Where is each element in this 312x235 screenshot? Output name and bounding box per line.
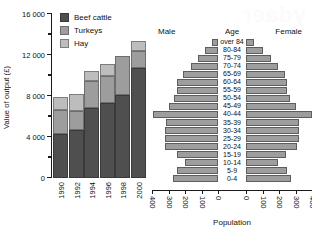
- pyramid-age-label: 15-19: [222, 151, 242, 159]
- pyramid-rows: over 8480-8475-7970-7465-6960-6455-5950-…: [152, 38, 312, 190]
- pyramid-age-label: 65-69: [222, 70, 242, 78]
- pyramid-female-bar[interactable]: [246, 95, 290, 102]
- pyramid-male-bar[interactable]: [177, 167, 218, 174]
- pyramid-row: 40-44: [152, 110, 312, 118]
- pyramid-female-bar[interactable]: [246, 111, 312, 118]
- bar-chart-x-tick-label: 2000: [135, 182, 144, 199]
- pyramid-female-bar[interactable]: [246, 143, 297, 150]
- pyramid-male-bar[interactable]: [177, 151, 218, 158]
- pyramid-age-label: 60-64: [222, 78, 242, 86]
- pyramid-row: 25-29: [152, 135, 312, 143]
- pyramid-female-bar[interactable]: [246, 135, 299, 142]
- pyramid-female-bar[interactable]: [246, 79, 287, 86]
- pyramid-female-bar[interactable]: [246, 63, 278, 70]
- legend-item[interactable]: Beef cattle: [60, 11, 112, 24]
- pyramid-row: 15-19: [152, 151, 312, 159]
- pyramid-female-heading: Female: [275, 27, 302, 36]
- pyramid-row: 20-24: [152, 143, 312, 151]
- pyramid-age-label: over 84: [219, 38, 244, 46]
- legend-item[interactable]: Turkeys: [60, 24, 112, 37]
- legend-swatch: [60, 39, 69, 48]
- legend-swatch: [60, 26, 69, 35]
- pyramid-row: 30-34: [152, 127, 312, 135]
- pyramid-x-tick-label: 300: [165, 196, 174, 209]
- bar-chart-y-minor-tick: [48, 156, 52, 157]
- bar-chart-y-minor-tick: [48, 115, 52, 116]
- pyramid-female-bar[interactable]: [246, 175, 291, 182]
- pyramid-male-bar[interactable]: [212, 39, 218, 46]
- pyramid-x-tick-label: 100: [259, 196, 268, 209]
- pyramid-male-bar[interactable]: [177, 79, 218, 86]
- pyramid-female-bar[interactable]: [246, 103, 296, 110]
- bar-chart-y-tick: [47, 177, 52, 178]
- pyramid-x-tick-label: 400: [308, 196, 312, 209]
- population-pyramid-chart: Male Age Female over 8480-8475-7970-7465…: [152, 0, 312, 235]
- pyramid-male-bar[interactable]: [165, 135, 218, 142]
- pyramid-row: 75-79: [152, 54, 312, 62]
- pyramid-male-bar[interactable]: [183, 71, 218, 78]
- pyramid-female-bar[interactable]: [246, 127, 299, 134]
- pyramid-male-bar[interactable]: [166, 119, 218, 126]
- pyramid-x-tick: [152, 190, 153, 194]
- pyramid-x-tick-label: 200: [275, 196, 284, 209]
- pyramid-female-bar[interactable]: [246, 167, 287, 174]
- pyramid-female-bar[interactable]: [246, 159, 278, 166]
- pyramid-female-bar[interactable]: [246, 151, 286, 158]
- bar-chart-segment: [131, 68, 146, 178]
- legend-label: Beef cattle: [74, 13, 112, 22]
- pyramid-x-tick: [218, 190, 219, 194]
- pyramid-age-label: 0-4: [226, 175, 238, 183]
- bar-chart-y-tick: [47, 13, 52, 14]
- pyramid-male-bar[interactable]: [173, 175, 218, 182]
- pyramid-row: 5-9: [152, 167, 312, 175]
- pyramid-x-tick-label: 300: [292, 196, 301, 209]
- bar-chart-y-tick-label: 16 000: [22, 10, 45, 19]
- bar-chart-segment: [53, 110, 68, 134]
- legend-item[interactable]: Hay: [60, 37, 112, 50]
- bar-chart-segment: [69, 111, 84, 129]
- bar-chart-y-tick-label: 12 000: [22, 51, 45, 60]
- pyramid-male-bar[interactable]: [191, 63, 218, 70]
- pyramid-age-label: 80-84: [222, 46, 242, 54]
- pyramid-female-bar[interactable]: [246, 55, 271, 62]
- stacked-bar-chart: Value of output (£) 04 0008 00012 00016 …: [0, 0, 152, 235]
- bar-chart-y-axis-title: Value of output (£): [1, 42, 13, 152]
- pyramid-row: 80-84: [152, 46, 312, 54]
- bar-chart-segment: [69, 130, 84, 178]
- bar-chart-segment: [115, 95, 130, 178]
- bar-chart-x-tick-label: 1996: [104, 182, 113, 199]
- pyramid-age-label: 55-59: [222, 86, 242, 94]
- bar-chart-segment: [115, 56, 130, 95]
- bar-chart-segment: [84, 71, 99, 80]
- pyramid-female-bar[interactable]: [246, 47, 263, 54]
- pyramid-male-bar[interactable]: [185, 159, 218, 166]
- pyramid-female-bar[interactable]: [246, 119, 299, 126]
- pyramid-male-bar[interactable]: [165, 127, 218, 134]
- bar-chart-x-tick-label: 1998: [119, 182, 128, 199]
- pyramid-male-bar[interactable]: [165, 143, 218, 150]
- pyramid-female-bar[interactable]: [246, 39, 254, 46]
- pyramid-row: 45-49: [152, 102, 312, 110]
- pyramid-male-bar[interactable]: [153, 111, 218, 118]
- bar-chart-segment: [100, 64, 115, 75]
- pyramid-age-label: 20-24: [222, 143, 242, 151]
- pyramid-age-label: 35-39: [222, 119, 242, 127]
- pyramid-male-bar[interactable]: [177, 87, 218, 94]
- pyramid-male-bar[interactable]: [205, 47, 218, 54]
- pyramid-row: over 84: [152, 38, 312, 46]
- pyramid-male-bar[interactable]: [174, 95, 218, 102]
- pyramid-x-axis-title: Population: [152, 218, 312, 227]
- pyramid-x-tick: [279, 190, 280, 194]
- bar-chart-segment: [84, 108, 99, 178]
- pyramid-female-bar[interactable]: [246, 87, 287, 94]
- bar-chart-y-minor-tick: [48, 33, 52, 34]
- pyramid-male-bar[interactable]: [169, 103, 219, 110]
- pyramid-male-bar[interactable]: [198, 55, 218, 62]
- pyramid-x-axis-line: [152, 190, 312, 191]
- pyramid-row: 0-4: [152, 175, 312, 183]
- pyramid-x-tick-label: 200: [181, 196, 190, 209]
- pyramid-female-bar[interactable]: [246, 71, 285, 78]
- pyramid-age-label: 45-49: [222, 102, 242, 110]
- pyramid-row: 35-39: [152, 119, 312, 127]
- bar-chart-segment: [100, 76, 115, 104]
